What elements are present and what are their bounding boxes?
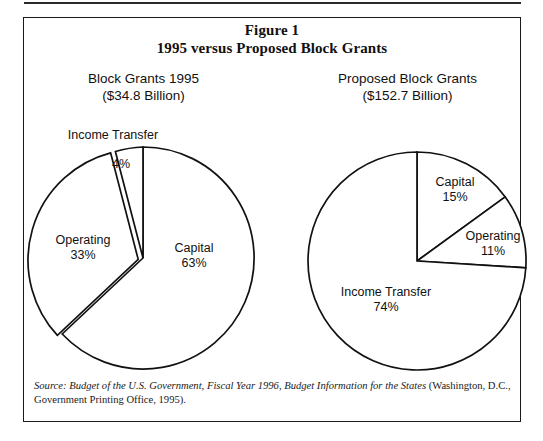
- left-label-income-transfer-pct: 4%: [104, 157, 138, 172]
- right-label-capital-name: Capital: [423, 175, 487, 190]
- left-panel-heading: Block Grants 1995 ($34.8 Billion): [36, 70, 251, 104]
- left-panel-heading-line2: ($34.8 Billion): [36, 87, 251, 104]
- left-label-income-transfer-name: Income Transfer: [58, 128, 168, 143]
- left-label-operating-name: Operating: [46, 233, 120, 248]
- figure-subtitle: 1995 versus Proposed Block Grants: [23, 40, 521, 57]
- right-label-income-transfer-pct: 74%: [330, 300, 442, 315]
- left-label-operating-pct: 33%: [46, 248, 120, 263]
- right-label-operating-name: Operating: [455, 229, 531, 244]
- right-label-capital-pct: 15%: [423, 190, 487, 205]
- right-label-capital: Capital 15%: [423, 175, 487, 205]
- left-label-capital-pct: 63%: [162, 256, 226, 271]
- right-label-operating: Operating 11%: [455, 229, 531, 259]
- right-label-income-transfer: Income Transfer 74%: [330, 285, 442, 315]
- left-label-capital-name: Capital: [162, 241, 226, 256]
- right-label-income-transfer-name: Income Transfer: [330, 285, 442, 300]
- left-panel-heading-line1: Block Grants 1995: [36, 70, 251, 87]
- right-panel-heading-line2: ($152.7 Billion): [300, 87, 515, 104]
- right-label-operating-pct: 11%: [455, 244, 531, 259]
- left-label-operating: Operating 33%: [46, 233, 120, 263]
- source-prefix: Source:: [34, 380, 67, 391]
- right-panel-heading-line1: Proposed Block Grants: [300, 70, 515, 87]
- page-top-rule: [24, 2, 521, 4]
- right-panel-heading: Proposed Block Grants ($152.7 Billion): [300, 70, 515, 104]
- source-title: Budget of the U.S. Government, Fiscal Ye…: [69, 380, 426, 391]
- figure-page: Figure 1 1995 versus Proposed Block Gran…: [0, 0, 543, 441]
- figure-title: Figure 1: [23, 22, 521, 39]
- left-label-capital: Capital 63%: [162, 241, 226, 271]
- source-note: Source: Budget of the U.S. Government, F…: [34, 379, 512, 406]
